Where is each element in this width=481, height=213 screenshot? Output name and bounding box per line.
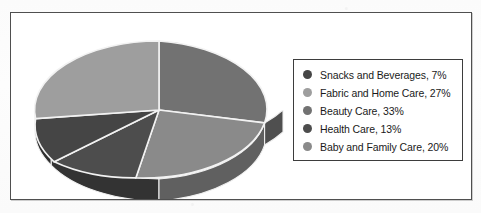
chart-frame: Snacks and Beverages, 7% Fabric and Home… (10, 12, 472, 200)
slice-beauty-care (159, 41, 267, 123)
legend-item-label: Baby and Family Care, 20% (320, 141, 448, 153)
pie-chart-3d (11, 13, 292, 199)
legend-item-label: Health Care, 13% (320, 123, 401, 135)
legend-swatch-icon (303, 124, 312, 133)
legend-swatch-icon (303, 106, 312, 115)
legend-item-label: Snacks and Beverages, 7% (320, 69, 447, 81)
legend-item-baby-and-family-care[interactable]: Baby and Family Care, 20% (303, 138, 454, 155)
pie-top-faces (35, 41, 267, 178)
chart-screenshot: Snacks and Beverages, 7% Fabric and Home… (0, 0, 481, 213)
legend-swatch-icon (303, 70, 312, 79)
legend-item-snacks-and-beverages[interactable]: Snacks and Beverages, 7% (303, 66, 454, 83)
legend-swatch-icon (303, 142, 312, 151)
legend-swatch-icon (303, 88, 312, 97)
legend-item-label: Fabric and Home Care, 27% (320, 87, 451, 99)
pie-plot-area (11, 13, 292, 199)
legend-item-label: Beauty Care, 33% (320, 105, 404, 117)
legend-item-beauty-care[interactable]: Beauty Care, 33% (303, 102, 454, 119)
chart-legend: Snacks and Beverages, 7% Fabric and Home… (293, 59, 463, 161)
legend-item-health-care[interactable]: Health Care, 13% (303, 120, 454, 137)
legend-list: Snacks and Beverages, 7% Fabric and Home… (303, 66, 454, 155)
legend-item-fabric-and-home-care[interactable]: Fabric and Home Care, 27% (303, 84, 454, 101)
slice-fabric-and-home-care (35, 41, 159, 119)
